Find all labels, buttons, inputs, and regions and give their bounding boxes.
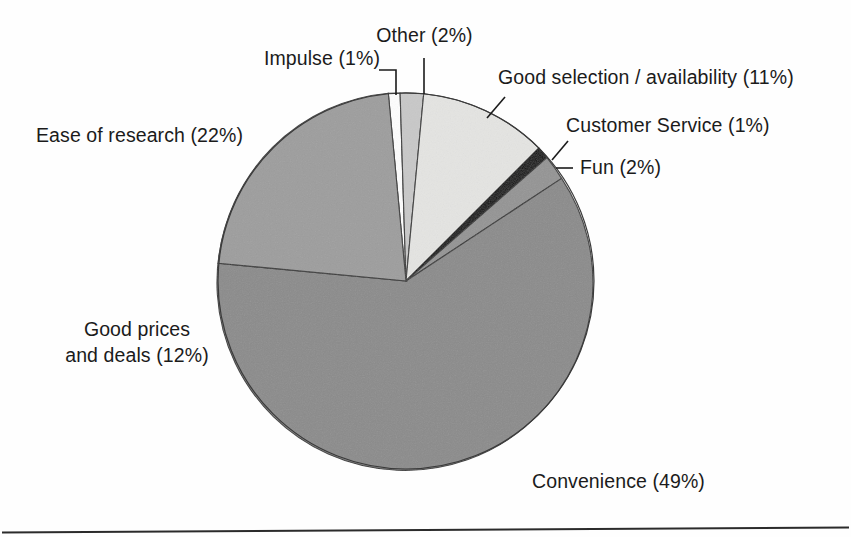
slice-label-good-selection: Good selection / availability (11%) bbox=[498, 66, 794, 90]
slice-label-good-prices-line1: Good prices bbox=[28, 318, 246, 342]
leader-line-good-selection bbox=[487, 97, 505, 118]
chart-page: Impulse (1%) Other (2%) Good selection /… bbox=[0, 0, 851, 537]
slice-label-customer-service: Customer Service (1%) bbox=[566, 114, 770, 138]
slice-label-good-prices-line2: and deals (12%) bbox=[28, 344, 246, 368]
pie-slice-ease-of-research[interactable] bbox=[218, 93, 406, 281]
slice-label-convenience: Convenience (49%) bbox=[532, 470, 705, 494]
slice-label-ease-of-research: Ease of research (22%) bbox=[36, 124, 243, 148]
leader-line-impulse bbox=[379, 70, 396, 95]
slice-label-impulse: Impulse (1%) bbox=[250, 47, 380, 71]
bottom-rule bbox=[2, 528, 849, 533]
leader-line-customer-service bbox=[552, 141, 568, 160]
slice-label-other: Other (2%) bbox=[362, 24, 487, 48]
slice-label-fun: Fun (2%) bbox=[580, 156, 661, 180]
